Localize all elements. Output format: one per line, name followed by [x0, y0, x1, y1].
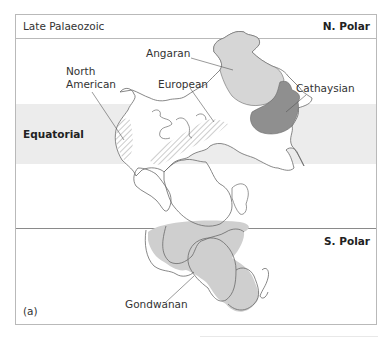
north-american-region	[116, 118, 133, 161]
bottom-rule	[200, 336, 378, 337]
angaran-label: Angaran	[146, 47, 190, 60]
gondwanan-label: Gondwanan	[125, 298, 188, 311]
arabia-outline	[232, 184, 248, 215]
north-american-label-line2: American	[66, 78, 116, 91]
european-label: European	[158, 78, 208, 91]
north-american-label-line1: North	[66, 65, 95, 78]
south-america-outline	[134, 159, 232, 226]
cathaysian-label: Cathaysian	[296, 82, 355, 95]
pangaea-map	[0, 0, 390, 340]
